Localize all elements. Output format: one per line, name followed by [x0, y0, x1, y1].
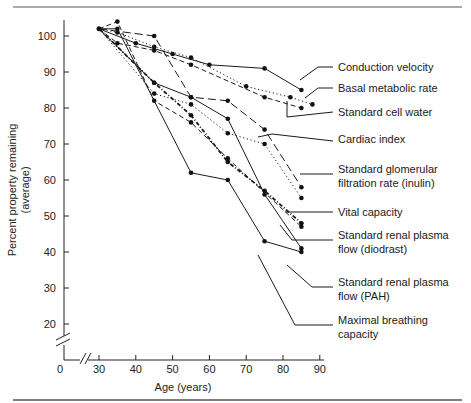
series-label-text: Conduction velocity	[338, 61, 434, 73]
data-point	[262, 142, 267, 147]
data-point	[299, 225, 304, 230]
data-point	[299, 250, 304, 255]
series-conduction-velocity	[99, 29, 304, 92]
series-maximal-breathing-capacity	[99, 27, 304, 255]
series-line	[99, 29, 301, 223]
data-point	[134, 41, 139, 46]
series-label-0: Conduction velocity	[300, 61, 434, 80]
data-point	[207, 63, 212, 68]
data-point-origin	[97, 26, 102, 31]
leader-line	[300, 67, 333, 80]
data-point	[226, 156, 231, 161]
data-point	[226, 99, 231, 104]
data-point	[189, 55, 194, 60]
series-label-2: Standard cell water	[287, 101, 432, 118]
series-layer	[97, 19, 315, 254]
y-axis-title-line1: Percent property remaining	[6, 124, 18, 257]
data-point	[288, 95, 293, 100]
data-point	[189, 95, 194, 100]
data-point	[226, 178, 231, 183]
y-axis-break-mark	[56, 333, 70, 340]
x-tick-label: 90	[314, 363, 326, 375]
data-point	[189, 120, 194, 125]
y-axis: 2030405060708090100	[38, 20, 70, 360]
y-tick-label: 100	[38, 30, 56, 42]
data-point	[262, 66, 267, 71]
y-tick-label: 90	[44, 66, 56, 78]
data-point	[299, 88, 304, 93]
series-line	[99, 29, 301, 90]
data-point	[299, 185, 304, 190]
series-label-3: Cardiac index	[258, 133, 406, 145]
y-tick-label: 40	[44, 246, 56, 258]
series-label-text: Standard renal plasma	[338, 229, 450, 241]
data-point	[152, 48, 157, 53]
data-point	[152, 91, 157, 96]
x-axis: 30405060708090	[64, 353, 326, 375]
x-axis-title: Age (years)	[155, 381, 212, 393]
series-label-text: Standard renal plasma	[338, 276, 450, 288]
data-point	[226, 117, 231, 122]
y-axis-title-line2: (average)	[19, 166, 31, 213]
series-line	[99, 29, 301, 198]
y-tick-label: 70	[44, 138, 56, 150]
data-point	[189, 102, 194, 107]
data-point	[115, 27, 120, 32]
series-label-text: Vital capacity	[338, 206, 403, 218]
data-point	[262, 127, 267, 132]
x-tick-label: 30	[93, 363, 105, 375]
series-label-text-line2: filtration rate (inulin)	[338, 177, 435, 189]
leader-line	[305, 88, 333, 98]
leader-line	[280, 225, 333, 240]
origin-label: 0	[57, 363, 63, 375]
series-basal-metabolic-rate	[99, 29, 315, 107]
series-label-text-line2: flow (diodrast)	[338, 243, 407, 255]
x-tick-label: 60	[203, 363, 215, 375]
series-label-7: Standard renal plasmaflow (PAH)	[287, 265, 450, 302]
x-tick-label: 80	[277, 363, 289, 375]
aging-property-chart: 2030405060708090100 30405060708090 0 Age…	[0, 0, 471, 403]
data-point	[189, 63, 194, 68]
series-label-text: Standard cell water	[338, 106, 432, 118]
data-point	[152, 81, 157, 86]
series-label-4: Standard glomerularfiltration rate (inul…	[300, 163, 438, 189]
x-tick-label: 70	[240, 363, 252, 375]
data-point	[189, 113, 194, 118]
data-point	[244, 84, 249, 89]
y-tick-label: 30	[44, 282, 56, 294]
series-labels: Conduction velocityBasal metabolic rateS…	[258, 61, 450, 340]
data-point	[299, 196, 304, 201]
x-axis-break-mark	[80, 353, 86, 364]
series-label-6: Standard renal plasmaflow (diodrast)	[280, 225, 450, 255]
series-label-text-line2: flow (PAH)	[338, 290, 390, 302]
data-point	[115, 19, 120, 24]
series-label-1: Basal metabolic rate	[305, 82, 438, 98]
data-point	[226, 131, 231, 136]
data-point	[310, 102, 315, 107]
y-tick-label: 60	[44, 174, 56, 186]
series-label-text-line2: capacity	[338, 328, 379, 340]
data-point	[262, 95, 267, 100]
data-point	[152, 34, 157, 39]
x-tick-label: 40	[130, 363, 142, 375]
series-label-text: Standard glomerular	[338, 163, 438, 175]
y-tick-label: 20	[44, 318, 56, 330]
y-axis-title: Percent property remaining (average)	[6, 124, 31, 257]
data-point	[299, 106, 304, 111]
data-point	[170, 52, 175, 57]
series-label-text: Cardiac index	[338, 133, 406, 145]
series-label-text: Basal metabolic rate	[338, 82, 438, 94]
series-label-5: Vital capacity	[285, 206, 403, 218]
series-standard-renal-plasma-flow-diodrast	[99, 29, 304, 226]
data-point	[189, 171, 194, 176]
x-tick-label: 50	[166, 363, 178, 375]
leader-line	[287, 265, 333, 287]
y-tick-label: 50	[44, 210, 56, 222]
series-label-text: Maximal breathing	[338, 314, 428, 326]
data-point	[262, 239, 267, 244]
y-tick-label: 80	[44, 102, 56, 114]
leader-line	[258, 255, 333, 325]
